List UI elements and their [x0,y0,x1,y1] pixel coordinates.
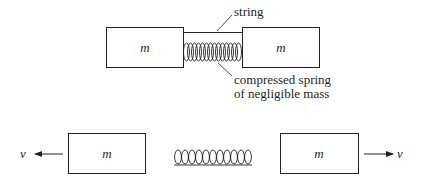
left-block-after-mass-label: m [102,146,111,161]
right-block-mass-label: m [276,40,285,55]
right-block-after-mass-label: m [314,146,323,161]
spring-mass-diagram: m m string compressed spring of negligib… [0,0,423,187]
released-spring [174,150,252,165]
right-velocity-label: v [397,146,403,161]
compressed-spring [184,43,242,61]
before-release-scene: m m string compressed spring of negligib… [107,4,332,101]
spring-label-line2: of negligible mass [234,86,329,101]
string-leader-line [217,15,232,31]
after-release-scene: v m m v [20,134,403,174]
diagram-canvas: m m string compressed spring of negligib… [0,0,423,187]
spring-label-line1: compressed spring [234,72,332,87]
string-label: string [234,4,264,19]
left-velocity-label: v [20,146,26,161]
spring-leader-line [218,63,232,76]
left-block-mass-label: m [140,40,149,55]
